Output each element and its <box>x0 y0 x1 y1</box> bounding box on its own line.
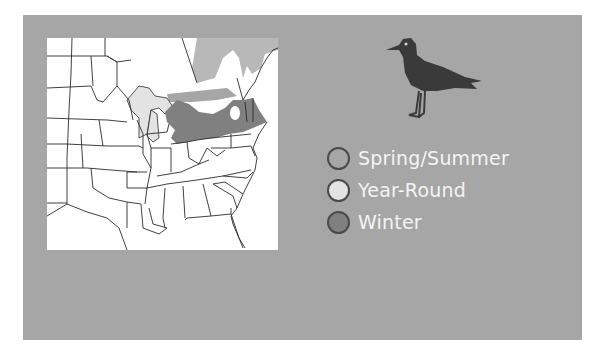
spring-summer-range-2 <box>167 88 237 102</box>
legend-label: Winter <box>358 211 422 233</box>
us-map-svg <box>47 38 278 250</box>
range-map <box>47 38 278 250</box>
legend-item-year-round: Year-Round <box>327 174 509 206</box>
legend-item-spring-summer: Spring/Summer <box>327 142 509 174</box>
legend-item-winter: Winter <box>327 206 509 238</box>
legend-label: Year-Round <box>358 179 466 201</box>
year-round-swatch-icon <box>327 179 350 202</box>
range-map-panel: Spring/Summer Year-Round Winter <box>23 15 582 340</box>
gull-silhouette-icon <box>385 35 485 125</box>
legend-label: Spring/Summer <box>358 147 509 169</box>
winter-swatch-icon <box>327 211 350 234</box>
spring-summer-swatch-icon <box>327 147 350 170</box>
legend: Spring/Summer Year-Round Winter <box>327 142 509 238</box>
